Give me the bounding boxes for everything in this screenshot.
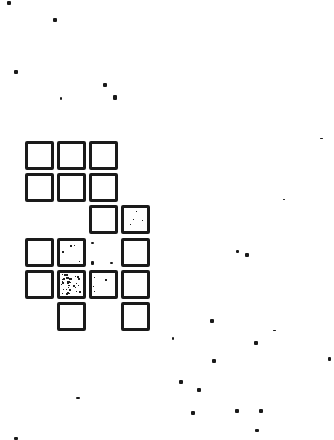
noise-dot — [93, 286, 94, 287]
noise-dot — [69, 293, 70, 294]
noise-dot — [94, 277, 95, 278]
speck — [236, 250, 239, 253]
noise-dot — [70, 282, 71, 283]
noise-dot — [79, 261, 80, 262]
grid-cell[interactable] — [57, 238, 86, 267]
speck — [53, 18, 57, 22]
speck — [172, 337, 174, 340]
noise-dot — [79, 291, 81, 293]
noise-dot — [78, 278, 80, 280]
speck — [91, 242, 94, 244]
speck — [191, 411, 195, 415]
noise-dot — [130, 224, 131, 225]
noise-dot — [69, 285, 70, 286]
speck — [110, 262, 113, 264]
noise-dot — [78, 285, 79, 286]
grid-cell[interactable] — [57, 173, 86, 202]
grid-cell[interactable] — [25, 270, 54, 299]
game-board — [0, 0, 334, 440]
noise-dot — [68, 287, 69, 288]
speck — [328, 357, 331, 361]
noise-dot — [66, 274, 68, 276]
speck — [255, 429, 259, 432]
grid-cell[interactable] — [121, 270, 150, 299]
speck — [103, 83, 107, 87]
noise-dot — [61, 284, 62, 285]
noise-dot — [94, 291, 95, 292]
noise-dot — [67, 292, 69, 294]
noise-dot — [70, 245, 72, 247]
speck — [235, 409, 239, 413]
noise-dot — [62, 282, 64, 284]
speck — [91, 261, 94, 265]
speck — [197, 388, 201, 392]
speck — [283, 199, 285, 200]
noise-dot — [69, 290, 70, 291]
noise-dot — [105, 279, 107, 281]
grid-cell[interactable] — [57, 141, 86, 170]
speck — [7, 1, 11, 5]
grid-cell[interactable] — [121, 302, 150, 331]
speck — [273, 330, 276, 331]
noise-dot — [76, 283, 77, 284]
noise-dot — [133, 219, 134, 220]
noise-dot — [70, 278, 72, 280]
speck — [320, 138, 323, 139]
speck — [60, 97, 62, 100]
grid-cell[interactable] — [89, 173, 118, 202]
grid-cell[interactable] — [121, 238, 150, 267]
speck — [212, 359, 216, 363]
speck — [245, 253, 249, 257]
noise-dot — [68, 285, 69, 286]
noise-dot — [63, 278, 65, 280]
grid-cell[interactable] — [89, 141, 118, 170]
noise-dot — [62, 274, 63, 275]
noise-dot — [62, 251, 64, 253]
speck — [14, 70, 18, 74]
noise-dot — [136, 211, 137, 212]
grid-cell[interactable] — [25, 173, 54, 202]
grid-cell[interactable] — [89, 270, 118, 299]
noise-dot — [67, 282, 69, 284]
grid-cell[interactable] — [57, 302, 86, 331]
noise-dot — [62, 293, 63, 294]
speck — [259, 409, 263, 413]
noise-dot — [77, 276, 79, 278]
noise-dot — [63, 289, 64, 290]
noise-dot — [142, 220, 143, 221]
noise-dot — [75, 276, 76, 277]
grid-cell[interactable] — [25, 238, 54, 267]
noise-dot — [62, 279, 63, 280]
noise-dot — [74, 245, 75, 246]
speck — [179, 380, 183, 384]
grid-cell[interactable] — [121, 205, 150, 234]
noise-dot — [75, 287, 76, 288]
speck — [113, 95, 117, 100]
noise-dot — [66, 289, 67, 290]
noise-dot — [76, 291, 77, 292]
speck — [76, 397, 80, 399]
grid-cell[interactable] — [89, 205, 118, 234]
noise-dot — [67, 281, 68, 282]
grid-cell[interactable] — [25, 141, 54, 170]
speck — [210, 319, 214, 323]
noise-dot — [69, 279, 70, 280]
noise-dot — [64, 274, 65, 275]
speck — [254, 341, 258, 345]
grid-cell[interactable] — [57, 270, 86, 299]
